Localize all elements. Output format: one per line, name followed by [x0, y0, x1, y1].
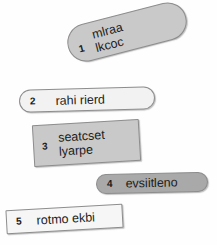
node-number-3: 3 [42, 141, 48, 151]
diagram-canvas: 1 mlraa lkcoc 2 rahi rierd 3 seatcset ly… [0, 0, 217, 245]
diagram-node-2[interactable]: 2 rahi rierd [19, 86, 156, 113]
diagram-node-5[interactable]: 5 rotmo ekbi [5, 204, 123, 234]
node-number-2: 2 [30, 96, 36, 106]
node-label-5: rotmo ekbi [36, 210, 95, 227]
node-label-1: mlraa lkcoc [90, 20, 127, 55]
node-label-4: evsiitleno [125, 175, 177, 190]
diagram-node-1[interactable]: 1 mlraa lkcoc [63, 0, 191, 66]
node-label-2: rahi rierd [55, 92, 105, 107]
diagram-node-4[interactable]: 4 evsiitleno [96, 172, 208, 194]
node-number-4: 4 [107, 179, 113, 189]
diagram-node-3[interactable]: 3 seatcset lyarpe [32, 119, 141, 167]
node-number-1: 1 [77, 43, 85, 54]
node-label-3: seatcset lyarpe [58, 128, 106, 159]
node-number-5: 5 [16, 216, 22, 226]
